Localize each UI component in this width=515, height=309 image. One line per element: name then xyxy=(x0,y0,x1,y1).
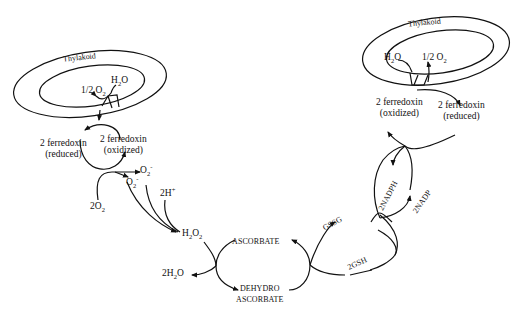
left-h2o-label: H2O xyxy=(111,75,128,86)
dehydroascorbate-label: DEHYDRO ASCORBATE xyxy=(236,283,284,305)
right-h2o-label: H2O xyxy=(384,52,401,63)
water-label: 2H2O xyxy=(162,268,184,279)
left-half-o2-label: 1/2 O2 xyxy=(81,85,106,96)
left-ferredoxin-oxidized: 2 ferredoxin (oxidized) xyxy=(100,134,147,156)
superoxide-out-label: O2- xyxy=(140,165,152,176)
protons-label: 2H+ xyxy=(160,188,175,199)
o2-input-label: 2O2 xyxy=(90,201,105,212)
right-half-o2-label: 1/2 O2 xyxy=(422,52,447,63)
left-ferredoxin-reduced: 2 ferredoxin (reduced) xyxy=(40,138,87,160)
ascorbate-label: ASCORBATE xyxy=(232,236,280,247)
superoxide-label: O2- xyxy=(126,177,138,188)
h2o2-label: H2O2 xyxy=(182,228,202,239)
right-ferredoxin-reduced: 2 ferredoxin (reduced) xyxy=(438,100,485,122)
right-ferredoxin-oxidized: 2 ferredoxin (oxidized) xyxy=(376,97,423,119)
